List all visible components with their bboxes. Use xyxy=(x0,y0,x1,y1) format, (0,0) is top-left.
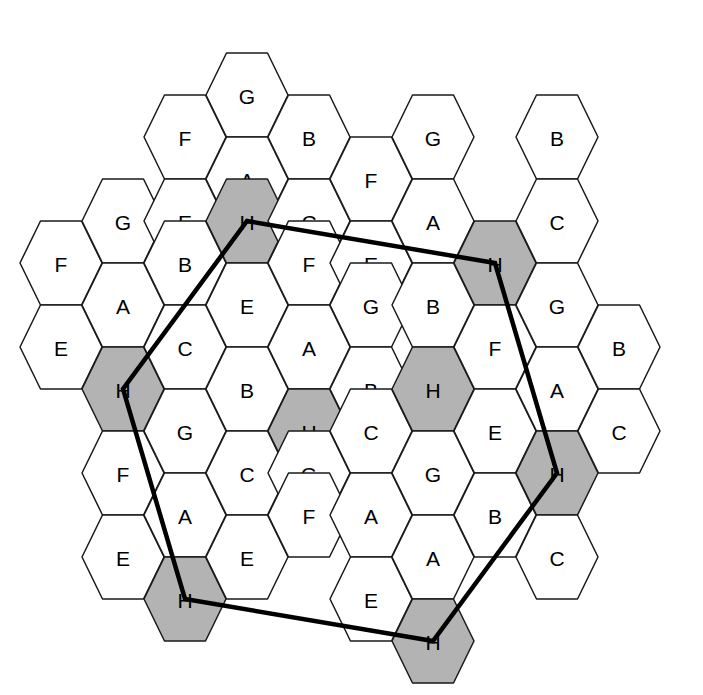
hex-cell-plain[interactable] xyxy=(516,95,598,179)
hex-cell[interactable]: B xyxy=(516,95,598,179)
hex-grid-canvas: FEGAHFEFEBCGAHGAHEBCEBCFAHGFFEGBCAEGABHG… xyxy=(0,0,703,695)
hex-cells-layer: FEGAHFEFEBCGAHGAHEBCEBCFAHGFFEGBCAEGABHG… xyxy=(20,53,660,683)
hexagonal-grid-diagram: FEGAHFEFEBCGAHGAHEBCEBCFAHGFFEGBCAEGABHG… xyxy=(0,0,703,695)
